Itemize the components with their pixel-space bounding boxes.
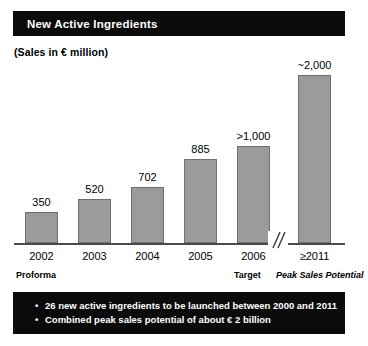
x-tick-2004: 2004 [122,250,173,262]
footer-bullet-1: • 26 new active ingredients to be launch… [35,299,345,313]
axis-break-icon [268,231,288,249]
bar-2005 [184,159,217,243]
bar-2006 [237,146,270,243]
group-label-target: Target [234,270,261,280]
bar-value-2004: 702 [122,171,173,183]
x-tick-2011: ≥2011 [289,250,340,262]
x-tick-2006: 2006 [228,250,279,262]
bullet-icon: • [35,313,38,327]
footer-callout-box: • 26 new active ingredients to be launch… [13,292,345,334]
bar-2011 [298,75,331,243]
x-axis-line [14,243,345,245]
bar-value-2002: 350 [16,196,67,208]
footer-bullet-1-text: 26 new active ingredients to be launched… [45,300,337,311]
bar-2003 [78,199,111,243]
group-label-proforma: Proforma [16,270,56,280]
bar-2004 [131,187,164,243]
footer-bullet-2-text: Combined peak sales potential of about €… [45,314,271,325]
bullet-icon: • [35,299,38,313]
x-tick-2003: 2003 [69,250,120,262]
bar-value-2011: ~2,000 [287,59,342,71]
x-tick-2002: 2002 [16,250,67,262]
bar-value-2006: >1,000 [226,130,281,142]
footer-bullet-2: • Combined peak sales potential of about… [35,313,345,327]
x-tick-2005: 2005 [175,250,226,262]
group-label-peak-sales-potential: Peak Sales Potential [276,270,364,280]
bar-chart: 350 520 702 885 >1,000 ~2,000 2002 2003 … [0,0,368,290]
bar-value-2005: 885 [175,143,226,155]
bar-2002 [25,212,58,243]
bar-value-2003: 520 [69,183,120,195]
